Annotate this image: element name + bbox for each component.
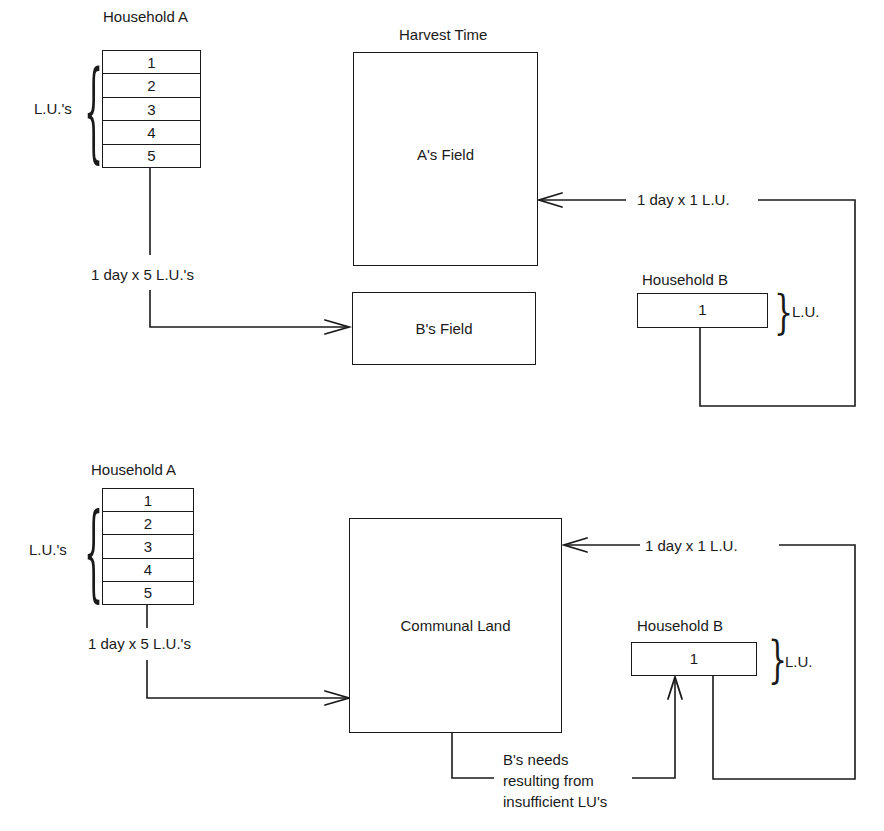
curly-brace-icon: {	[84, 500, 103, 605]
needs-note: B's needs resulting from insufficient LU…	[503, 749, 607, 812]
labor-unit-cell: 4	[103, 121, 200, 144]
labor-unit-cell: 1	[103, 489, 193, 512]
lu-brace-label-bottom: L.U.	[785, 653, 813, 671]
connector-a-to-communal	[147, 660, 347, 698]
curly-brace-right-icon: }	[774, 289, 793, 336]
connector-a-to-b-field	[150, 290, 347, 327]
household-b-label-top: Household B	[642, 271, 728, 289]
needs-note-line: insufficient LU's	[503, 791, 607, 812]
labor-unit-cell: 2	[103, 74, 200, 97]
b-field-box: B's Field	[352, 292, 536, 365]
b-field-label: B's Field	[353, 320, 535, 337]
communal-land-box: Communal Land	[349, 518, 562, 733]
labor-unit-cell: 3	[103, 535, 193, 558]
a-field-label: A's Field	[354, 146, 537, 163]
household-a-label-top: Household A	[103, 8, 188, 26]
curly-brace-icon: {	[84, 58, 103, 166]
needs-note-line: resulting from	[503, 770, 607, 791]
household-b-label-bottom: Household B	[637, 617, 723, 635]
labor-unit-cell: 2	[103, 512, 193, 535]
flow-label-a-top: 1 day x 5 L.U.'s	[91, 266, 194, 284]
labor-unit-cell: 1	[632, 650, 756, 667]
household-b-unit-top: 1	[637, 293, 768, 328]
labor-unit-cell: 5	[103, 582, 193, 604]
needs-note-line: B's needs	[503, 749, 607, 770]
lu-brace-label-top: L.U.	[792, 303, 820, 321]
household-b-unit-bottom: 1	[631, 642, 757, 676]
labor-unit-cell: 3	[103, 98, 200, 121]
labor-unit-cell: 1	[638, 301, 767, 318]
flow-label-a-bottom: 1 day x 5 L.U.'s	[88, 635, 191, 653]
household-a-units-bottom: 1 2 3 4 5	[102, 488, 194, 605]
communal-land-label: Communal Land	[350, 617, 561, 634]
a-field-box: A's Field	[353, 52, 538, 266]
labor-unit-cell: 1	[103, 51, 200, 74]
flow-label-b-top: 1 day x 1 L.U.	[637, 191, 730, 209]
household-a-units-top: 1 2 3 4 5	[102, 50, 201, 168]
flow-label-b-bottom: 1 day x 1 L.U.	[645, 537, 738, 555]
household-a-label-bottom: Household A	[91, 461, 176, 479]
lus-brace-label-top: L.U.'s	[34, 100, 72, 118]
labor-unit-cell: 5	[103, 145, 200, 167]
lus-brace-label-bottom: L.U.'s	[29, 541, 67, 559]
labor-unit-cell: 4	[103, 559, 193, 582]
harvest-time-title: Harvest Time	[399, 26, 487, 44]
connector-communal-needs	[452, 732, 494, 778]
